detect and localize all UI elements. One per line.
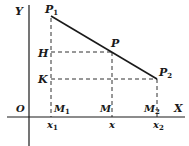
diagram-canvas: Y X O P1 P P2 H K M1 M M2 x1 x x2 (0, 0, 189, 146)
y-axis-label: Y (15, 5, 24, 18)
m-label: M (99, 103, 112, 114)
point-p-label: P (110, 37, 120, 50)
segment-p1-p2 (51, 16, 157, 79)
point-p1-label: P1 (44, 3, 58, 17)
x-axis-label: X (173, 102, 183, 115)
point-p2-label: P2 (158, 66, 172, 80)
x-tick-label: x (108, 119, 116, 130)
origin-label: O (16, 103, 25, 114)
k-label: K (37, 73, 48, 86)
x1-tick-label: x1 (46, 119, 58, 132)
h-label: H (37, 47, 49, 60)
m2-label: M2 (143, 103, 160, 116)
x2-tick-label: x2 (152, 119, 164, 132)
m1-label: M1 (53, 103, 70, 116)
